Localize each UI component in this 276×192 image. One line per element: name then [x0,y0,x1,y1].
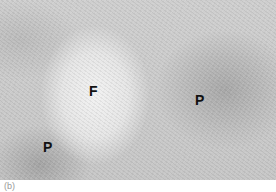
label-paracortex-right: P [195,92,204,108]
label-paracortex-left: P [43,139,52,155]
label-follicle: F [89,83,98,99]
figure-caption: (b) [4,181,15,191]
tissue-texture [0,0,276,180]
micrograph-image: F P P [0,0,276,180]
